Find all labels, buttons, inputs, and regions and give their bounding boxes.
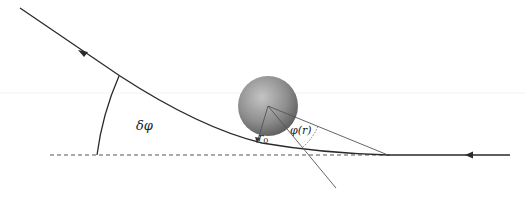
label-phi-r: φ(r) [290,124,312,137]
deflection-angle-arc [97,76,119,155]
line-center-to-vertex [268,106,388,155]
deflection-diagram: δφ r0 φ(r) [0,0,525,198]
trajectory-arrow-right-icon [465,152,473,159]
trajectory-arrow-upper-icon [78,50,88,57]
label-delta-phi: δφ [136,118,154,133]
line-center-to-asymptote [268,106,336,188]
